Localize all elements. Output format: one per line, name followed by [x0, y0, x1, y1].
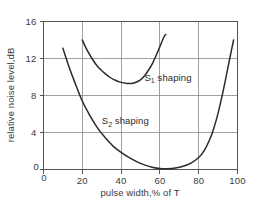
y-tick-label: 8 — [31, 90, 36, 101]
y-tick-label: 12 — [26, 53, 37, 64]
y-tick-label: 16 — [26, 16, 37, 27]
noise-level-line-chart: 481216 20406080100 S1 shapingS2 shaping … — [0, 0, 257, 206]
x-tick-label: 60 — [154, 175, 165, 186]
series-label-2: S2 shaping — [102, 115, 149, 128]
grid-lines — [44, 22, 238, 170]
data-curve-1 — [82, 34, 165, 83]
tick-marks — [40, 22, 238, 174]
x-origin-label: 0 — [41, 172, 46, 183]
x-axis-title: pulse width,% of T — [100, 187, 179, 198]
y-tick-labels: 481216 — [26, 16, 37, 138]
y-axis-title: relative noise level,dB — [5, 48, 16, 143]
x-tick-label: 20 — [77, 175, 88, 186]
series-label-1: S1 shaping — [144, 72, 191, 85]
x-tick-label: 80 — [193, 175, 204, 186]
data-curve-2 — [63, 40, 234, 169]
x-tick-label: 100 — [229, 175, 245, 186]
x-tick-labels: 20406080100 — [77, 175, 246, 186]
data-curves — [63, 34, 234, 168]
chart-figure: 481216 20406080100 S1 shapingS2 shaping … — [0, 0, 257, 206]
x-tick-label: 40 — [116, 175, 127, 186]
y-origin-label: 0 — [34, 161, 39, 172]
y-tick-label: 4 — [31, 127, 36, 138]
